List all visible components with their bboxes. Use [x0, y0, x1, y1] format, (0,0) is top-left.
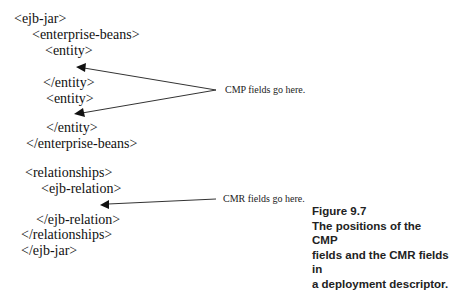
- cmr-annotation: CMR fields go here.: [223, 193, 305, 204]
- figure-label: Figure 9.7: [312, 204, 449, 219]
- cmp-arrow-upper-icon: [76, 63, 216, 90]
- caption-line: fields and the CMR fields in: [312, 248, 449, 277]
- caption-line: The positions of the CMP: [312, 219, 449, 248]
- cmr-arrow-icon: [100, 199, 216, 209]
- cmp-annotation: CMP fields go here.: [225, 84, 305, 95]
- cmp-arrow-lower-icon: [74, 90, 216, 117]
- figure-caption: Figure 9.7 The positions of the CMP fiel…: [312, 204, 449, 291]
- caption-line: a deployment descriptor.: [312, 277, 449, 291]
